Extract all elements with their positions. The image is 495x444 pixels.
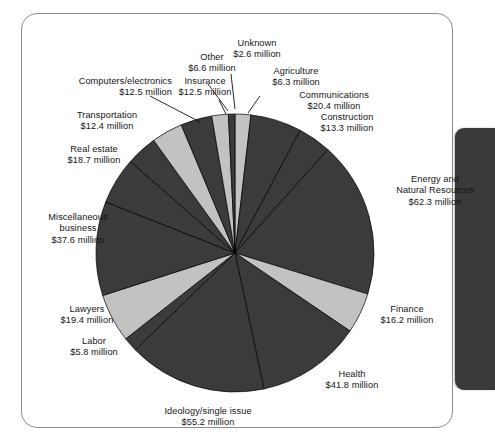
slice-label-finance: Finance $16.2 million <box>362 304 452 327</box>
slice-label-insurance-name: Insurance <box>166 76 244 87</box>
slice-label-unknown-name: Unknown <box>218 38 296 49</box>
slice-label-finance-value: $16.2 million <box>362 315 452 326</box>
slice-label-construction-name: Construction <box>304 112 390 123</box>
slice-label-transportation-value: $12.4 million <box>52 121 162 132</box>
slice-label-energy-natural-resources-name-2: Natural Resources <box>384 185 486 196</box>
slice-label-insurance-value: $12.5 million <box>166 87 244 98</box>
slice-label-miscellaneous-business: Miscellaneous business $37.6 million <box>30 212 126 246</box>
slice-label-labor: Labor $5.8 million <box>52 336 136 359</box>
slice-label-health-value: $41.8 million <box>312 380 392 391</box>
slice-label-agriculture-name: Agriculture <box>255 66 337 77</box>
slice-label-construction-value: $13.3 million <box>304 123 390 134</box>
slice-label-miscellaneous-business-name-2: business <box>30 223 126 234</box>
slice-label-communications: Communications $20.4 million <box>287 90 381 113</box>
pie-chart: Unknown $2.6 million Other $6.6 million … <box>22 14 452 427</box>
slice-label-finance-name: Finance <box>362 304 452 315</box>
slice-label-other-value: $6.6 million <box>177 63 247 74</box>
slice-label-real-estate-name: Real estate <box>44 144 144 155</box>
slice-label-agriculture: Agriculture $6.3 million <box>255 66 337 89</box>
slice-label-real-estate-value: $18.7 million <box>44 155 144 166</box>
slice-label-other: Other $6.6 million <box>177 52 247 75</box>
side-page-tab[interactable] <box>455 128 495 390</box>
slice-label-agriculture-value: $6.3 million <box>255 77 337 88</box>
slice-label-ideology-single-issue: Ideology/single issue $55.2 million <box>140 406 276 429</box>
leader-line-agriculture <box>248 96 260 113</box>
slice-label-communications-name: Communications <box>287 90 381 101</box>
slice-label-ideology-single-issue-name: Ideology/single issue <box>140 406 276 417</box>
slice-label-lawyers-value: $19.4 million <box>38 315 136 326</box>
slice-label-ideology-single-issue-value: $55.2 million <box>140 417 276 428</box>
slice-label-labor-name: Labor <box>52 336 136 347</box>
slice-label-computers-electronics-value: $12.5 million <box>40 87 172 98</box>
figure-card: Unknown $2.6 million Other $6.6 million … <box>21 13 453 428</box>
slice-label-miscellaneous-business-name-1: Miscellaneous <box>30 212 126 223</box>
slice-label-transportation: Transportation $12.4 million <box>52 110 162 133</box>
slice-label-energy-natural-resources-value: $62.3 million <box>384 197 486 208</box>
slice-label-real-estate: Real estate $18.7 million <box>44 144 144 167</box>
slice-label-health: Health $41.8 million <box>312 369 392 392</box>
slice-label-transportation-name: Transportation <box>52 110 162 121</box>
slice-label-lawyers: Lawyers $19.4 million <box>38 304 136 327</box>
slice-label-insurance: Insurance $12.5 million <box>166 76 244 99</box>
slice-label-health-name: Health <box>312 369 392 380</box>
slice-label-other-name: Other <box>177 52 247 63</box>
slice-label-miscellaneous-business-value: $37.6 million <box>30 235 126 246</box>
slice-label-energy-natural-resources: Energy and Natural Resources $62.3 milli… <box>384 174 486 208</box>
slice-label-labor-value: $5.8 million <box>52 347 136 358</box>
slice-label-lawyers-name: Lawyers <box>38 304 136 315</box>
slice-label-computers-electronics-name: Computers/electronics <box>40 76 172 87</box>
slice-label-energy-natural-resources-name-1: Energy and <box>384 174 486 185</box>
slice-label-construction: Construction $13.3 million <box>304 112 390 135</box>
slice-label-computers-electronics: Computers/electronics $12.5 million <box>40 76 172 99</box>
